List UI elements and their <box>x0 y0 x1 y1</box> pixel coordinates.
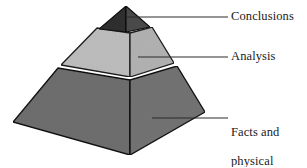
apex-left-face <box>99 6 126 32</box>
pyramid-tier-middle <box>61 27 174 77</box>
tier-label-conclusions: Conclusions <box>231 9 294 24</box>
base-right-face <box>130 66 205 155</box>
tier-label-analysis: Analysis <box>231 49 276 64</box>
tier-label-facts-line-2: physical <box>231 154 279 168</box>
pyramid-tier-apex <box>99 6 150 32</box>
pyramid-tier-base <box>13 66 205 155</box>
apex-right-face <box>126 6 150 32</box>
tier-label-facts-line-1: Facts and <box>231 125 279 140</box>
tier-label-facts: Facts and physical evidence <box>231 110 279 167</box>
pyramid-diagram: Conclusions Analysis Facts and physical … <box>0 0 307 167</box>
base-left-face <box>13 68 130 155</box>
